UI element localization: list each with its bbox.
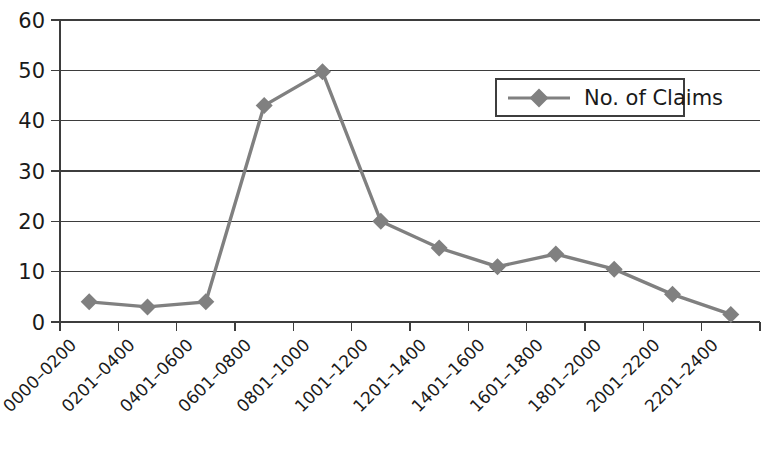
y-tick-label-50: 50 bbox=[18, 59, 45, 83]
data-point-marker bbox=[197, 293, 214, 310]
y-axis: 0102030405060 bbox=[18, 9, 60, 335]
y-axis-tick-labels: 0102030405060 bbox=[18, 9, 45, 335]
data-point-marker bbox=[489, 258, 506, 275]
data-point-marker bbox=[431, 240, 448, 257]
y-tick-label-0: 0 bbox=[32, 311, 45, 335]
line-chart-figure: 0102030405060 0000–02000201–04000401–060… bbox=[0, 0, 775, 452]
y-tick-label-40: 40 bbox=[18, 109, 45, 133]
chart-canvas: 0102030405060 0000–02000201–04000401–060… bbox=[0, 0, 775, 452]
data-point-marker bbox=[139, 298, 156, 315]
data-point-marker bbox=[547, 246, 564, 263]
data-point-marker bbox=[606, 261, 623, 278]
x-axis: 0000–02000201–04000401–06000601–08000801… bbox=[0, 322, 760, 416]
legend-entry-label: No. of Claims bbox=[584, 86, 723, 110]
chart-legend[interactable]: No. of Claims bbox=[496, 79, 723, 116]
x-axis-tick-labels: 0000–02000201–04000401–06000601–08000801… bbox=[0, 335, 722, 416]
y-tick-label-20: 20 bbox=[18, 210, 45, 234]
data-point-marker bbox=[664, 286, 681, 303]
y-tick-label-10: 10 bbox=[18, 260, 45, 284]
y-tick-label-60: 60 bbox=[18, 9, 45, 33]
y-tick-label-30: 30 bbox=[18, 160, 45, 184]
x-axis-ticks bbox=[60, 322, 760, 331]
data-point-marker bbox=[256, 97, 273, 114]
data-point-marker bbox=[722, 306, 739, 323]
data-point-marker bbox=[314, 63, 331, 80]
y-axis-ticks bbox=[51, 20, 60, 322]
data-point-marker bbox=[372, 213, 389, 230]
data-point-marker bbox=[81, 293, 98, 310]
